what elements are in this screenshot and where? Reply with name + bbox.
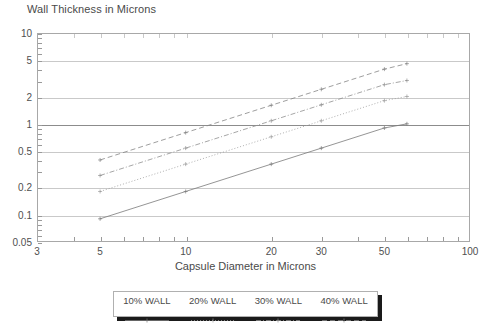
y-tick-mark [38, 38, 42, 39]
gridline-y [38, 125, 469, 126]
y-axis-tick-label: 0.05 [0, 237, 32, 248]
x-tick-mark-top [322, 34, 323, 38]
y-tick-mark [38, 243, 42, 244]
y-axis-tick-label: 10 [0, 28, 32, 39]
x-tick-mark [358, 237, 359, 241]
x-tick-mark-top [443, 34, 444, 38]
y-tick-mark [38, 61, 42, 62]
x-tick-mark-top [187, 34, 188, 38]
y-tick-mark [38, 188, 42, 189]
x-axis-tick-label: 20 [266, 246, 277, 257]
y-tick-mark [38, 161, 42, 162]
y-tick-mark [38, 145, 42, 146]
y-tick-mark [38, 236, 42, 237]
x-tick-mark-top [174, 34, 175, 38]
gridline-y [38, 152, 469, 153]
y-tick-mark [38, 152, 42, 153]
x-tick-mark [427, 237, 428, 241]
legend: 10% WALL20% WALL30% WALL40% WALL [113, 291, 378, 317]
y-tick-mark [38, 98, 42, 99]
x-tick-mark [101, 237, 102, 241]
plot-area [37, 33, 470, 242]
y-tick-mark [38, 70, 42, 71]
x-tick-mark [322, 237, 323, 241]
x-axis-tick-label: 100 [462, 246, 479, 257]
legend-item[interactable]: 40% WALL [313, 295, 375, 314]
x-tick-mark [408, 237, 409, 241]
y-tick-mark [38, 82, 42, 83]
x-tick-mark [124, 237, 125, 241]
x-tick-mark-top [408, 34, 409, 38]
x-tick-mark [174, 237, 175, 241]
legend-line-sample [125, 309, 169, 314]
y-tick-mark [38, 172, 42, 173]
legend-item[interactable]: 20% WALL [182, 295, 244, 314]
y-tick-mark [38, 54, 42, 55]
y-tick-mark [38, 43, 42, 44]
y-tick-mark [38, 220, 42, 221]
x-tick-mark-top [124, 34, 125, 38]
legend-line-sample [322, 309, 366, 314]
x-tick-mark-top [143, 34, 144, 38]
legend-item-label: 10% WALL [123, 295, 170, 306]
x-tick-mark [143, 237, 144, 241]
x-tick-mark [443, 237, 444, 241]
y-tick-mark [38, 230, 42, 231]
x-tick-mark [272, 237, 273, 241]
legend-line-sample [256, 309, 300, 314]
x-axis-tick-label: 3 [34, 246, 40, 257]
y-tick-mark [38, 125, 42, 126]
x-tick-mark-top [159, 34, 160, 38]
x-tick-mark [187, 237, 188, 241]
y-axis-tick-label: 0.5 [0, 146, 32, 157]
x-axis-tick-label: 10 [180, 246, 191, 257]
y-tick-mark [38, 34, 42, 35]
y-axis-tick-label: 0.2 [0, 182, 32, 193]
x-tick-mark [458, 237, 459, 241]
x-tick-mark-top [101, 34, 102, 38]
y-tick-mark [38, 225, 42, 226]
legend-item[interactable]: 30% WALL [247, 295, 309, 314]
y-tick-mark [38, 216, 42, 217]
y-tick-mark [38, 129, 42, 130]
gridline-y [38, 216, 469, 217]
chart-title: Wall Thickness in Microns [27, 3, 156, 15]
legend-item-label: 30% WALL [255, 295, 302, 306]
x-tick-mark-top [272, 34, 273, 38]
y-axis-tick-label: 5 [0, 55, 32, 66]
gridline-y [38, 98, 469, 99]
legend-items: 10% WALL20% WALL30% WALL40% WALL [114, 292, 377, 316]
x-tick-mark-top [385, 34, 386, 38]
legend-line-sample [191, 309, 235, 314]
x-tick-mark [74, 237, 75, 241]
y-tick-mark [38, 48, 42, 49]
legend-item-label: 40% WALL [321, 295, 368, 306]
y-axis-tick-label: 0.1 [0, 209, 32, 220]
x-tick-mark-top [74, 34, 75, 38]
x-tick-mark [159, 237, 160, 241]
gridline-y [38, 61, 469, 62]
x-tick-mark-top [427, 34, 428, 38]
gridline-y [38, 188, 469, 189]
x-axis-tick-label: 50 [379, 246, 390, 257]
x-tick-mark [385, 237, 386, 241]
x-axis-title: Capsule Diameter in Microns [0, 260, 491, 272]
x-axis-tick-label: 5 [97, 246, 103, 257]
y-tick-mark [38, 139, 42, 140]
x-axis-tick-label: 30 [316, 246, 327, 257]
y-axis-tick-label: 1 [0, 118, 32, 129]
legend-item[interactable]: 10% WALL [116, 295, 178, 314]
legend-item-label: 20% WALL [189, 295, 236, 306]
y-axis-tick-label: 2 [0, 91, 32, 102]
x-tick-mark-top [458, 34, 459, 38]
y-tick-mark [38, 134, 42, 135]
x-tick-mark-top [358, 34, 359, 38]
